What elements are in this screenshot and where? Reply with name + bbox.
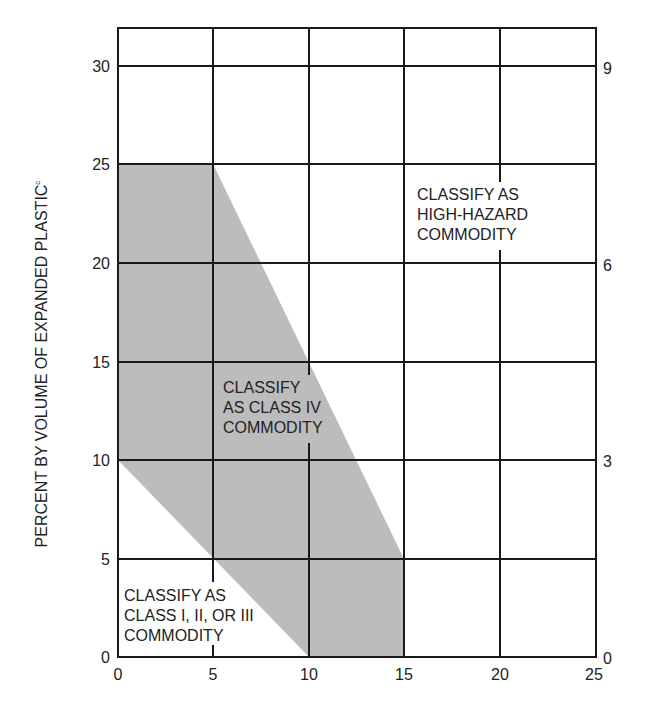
x-tick-15: 15 (395, 666, 413, 683)
y-tick-25: 25 (92, 156, 110, 173)
y-tick-0: 0 (101, 649, 110, 666)
label-high-hazard: CLASSIFY AS HIGH-HAZARD COMMODITY (417, 186, 528, 243)
label-mid-line-1: CLASSIFY (223, 379, 301, 396)
y-tick-20: 20 (92, 255, 110, 272)
y-axis-right-ticks: 0 3 6 9 (603, 60, 612, 667)
x-axis-ticks: 0 5 10 15 20 25 (114, 666, 603, 683)
y-tick-15: 15 (92, 354, 110, 371)
label-high-line-2: HIGH-HAZARD (417, 206, 528, 223)
y-tick-10: 10 (92, 452, 110, 469)
x-tick-20: 20 (491, 666, 509, 683)
right-tick-9: 9 (603, 60, 612, 77)
x-tick-10: 10 (300, 666, 318, 683)
label-mid-line-3: COMMODITY (223, 419, 323, 436)
classification-chart: 0 5 10 15 20 25 30 0 3 6 9 0 5 10 15 20 … (0, 0, 655, 709)
y-tick-5: 5 (101, 551, 110, 568)
label-mid-line-2: AS CLASS IV (223, 399, 321, 416)
y-axis-title-text: PERCENT BY VOLUME OF EXPANDED PLASTIC (33, 185, 50, 548)
y-axis-title-superscript: c (33, 181, 42, 185)
right-tick-0: 0 (603, 650, 612, 667)
label-high-line-1: CLASSIFY AS (417, 186, 519, 203)
x-tick-5: 5 (209, 666, 218, 683)
label-low-line-2: CLASS I, II, OR III (124, 607, 254, 624)
y-axis-title: PERCENT BY VOLUME OF EXPANDED PLASTICc (33, 181, 50, 548)
y-tick-30: 30 (92, 58, 110, 75)
label-low-line-1: CLASSIFY AS (124, 587, 226, 604)
right-tick-6: 6 (603, 257, 612, 274)
label-low-line-3: COMMODITY (124, 627, 224, 644)
label-class-i-ii-iii: CLASSIFY AS CLASS I, II, OR III COMMODIT… (124, 587, 254, 644)
x-tick-0: 0 (114, 666, 123, 683)
x-tick-25: 25 (585, 666, 603, 683)
y-axis-left-ticks: 0 5 10 15 20 25 30 (92, 58, 110, 666)
right-tick-3: 3 (603, 453, 612, 470)
label-high-line-3: COMMODITY (417, 226, 517, 243)
